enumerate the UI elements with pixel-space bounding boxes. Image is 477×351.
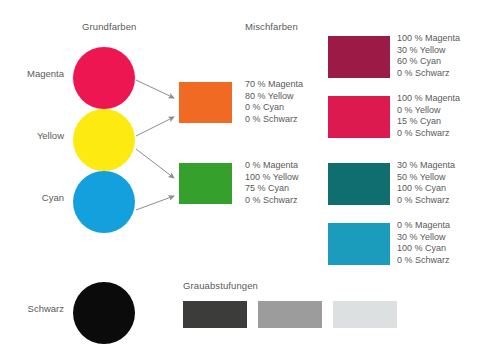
spec-extended-dark-teal: 30 % Magenta 50 % Yellow 100 % Cyan 0 % …	[397, 160, 455, 206]
swatch-extended-burgundy	[328, 36, 390, 78]
arrow-magenta-to-orange	[136, 80, 174, 98]
spec-line-schwarz: 0 % Schwarz	[397, 255, 450, 267]
label-primary-schwarz: Schwarz	[0, 303, 64, 314]
spec-line-magenta: 0 % Magenta	[397, 220, 450, 232]
spec-line-cyan: 15 % Cyan	[397, 116, 460, 128]
spec-line-yellow: 30 % Yellow	[397, 45, 460, 57]
spec-line-yellow: 50 % Yellow	[397, 172, 455, 184]
swatch-gray-medium	[258, 301, 322, 328]
spec-extended-crimson: 100 % Magenta 0 % Yellow 15 % Cyan 0 % S…	[397, 93, 460, 139]
spec-mixed-green: 0 % Magenta 100 % Yellow 75 % Cyan 0 % S…	[245, 160, 299, 206]
label-primary-magenta: Magenta	[0, 68, 64, 79]
spec-line-cyan: 100 % Cyan	[397, 243, 450, 255]
spec-line-magenta: 0 % Magenta	[245, 160, 299, 172]
spec-line-yellow: 30 % Yellow	[397, 232, 450, 244]
spec-mixed-orange: 70 % Magenta 80 % Yellow 0 % Cyan 0 % Sc…	[245, 79, 303, 125]
swatch-extended-light-teal	[328, 223, 390, 265]
cmyk-color-mixing-diagram: Grundfarben Mischfarben Grauabstufungen …	[0, 0, 477, 351]
spec-line-yellow: 80 % Yellow	[245, 91, 303, 103]
spec-line-yellow: 100 % Yellow	[245, 172, 299, 184]
spec-line-cyan: 0 % Cyan	[245, 102, 303, 114]
spec-line-schwarz: 0 % Schwarz	[397, 195, 455, 207]
swatch-circle-cyan	[73, 171, 135, 233]
swatch-mixed-orange	[179, 82, 232, 123]
arrow-yellow-to-orange	[136, 117, 174, 136]
swatch-gray-light	[333, 301, 397, 328]
swatch-circle-schwarz	[73, 282, 135, 344]
label-primary-yellow: Yellow	[0, 130, 64, 141]
label-primary-cyan: Cyan	[0, 192, 64, 203]
spec-extended-light-teal: 0 % Magenta 30 % Yellow 100 % Cyan 0 % S…	[397, 220, 450, 266]
spec-line-cyan: 75 % Cyan	[245, 183, 299, 195]
spec-line-cyan: 60 % Cyan	[397, 56, 460, 68]
spec-extended-burgundy: 100 % Magenta 30 % Yellow 60 % Cyan 0 % …	[397, 33, 460, 79]
swatch-extended-dark-teal	[328, 163, 390, 205]
spec-line-magenta: 100 % Magenta	[397, 33, 460, 45]
spec-line-magenta: 100 % Magenta	[397, 93, 460, 105]
heading-grundfarben: Grundfarben	[82, 21, 136, 32]
heading-mischfarben: Mischfarben	[245, 21, 298, 32]
swatch-extended-crimson	[328, 96, 390, 138]
spec-line-yellow: 0 % Yellow	[397, 105, 460, 117]
swatch-gray-dark	[183, 301, 247, 328]
spec-line-schwarz: 0 % Schwarz	[397, 68, 460, 80]
arrow-cyan-to-green	[136, 196, 174, 210]
spec-line-magenta: 30 % Magenta	[397, 160, 455, 172]
spec-line-schwarz: 0 % Schwarz	[245, 114, 303, 126]
spec-line-cyan: 100 % Cyan	[397, 183, 455, 195]
heading-grauabstufungen: Grauabstufungen	[183, 280, 258, 291]
swatch-mixed-green	[179, 163, 232, 204]
swatch-circle-magenta	[73, 47, 135, 109]
arrow-yellow-to-green	[136, 149, 174, 178]
spec-line-schwarz: 0 % Schwarz	[245, 195, 299, 207]
swatch-circle-yellow	[73, 109, 135, 171]
spec-line-magenta: 70 % Magenta	[245, 79, 303, 91]
spec-line-schwarz: 0 % Schwarz	[397, 128, 460, 140]
